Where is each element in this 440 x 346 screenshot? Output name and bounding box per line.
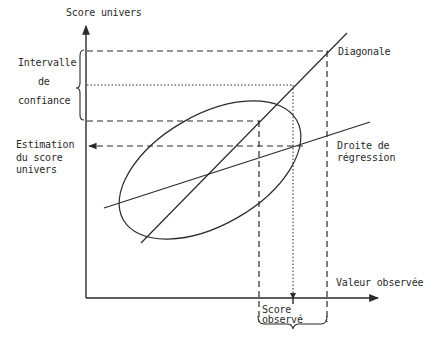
regression-label-line2: régression [337,152,395,164]
interval-label-line1: Intervalle [18,57,76,69]
interval-label-line3: confiance [18,95,70,107]
data-ellipse [96,72,324,267]
regression-label-line1: Droite de [337,140,389,152]
diagram-canvas: Score univers Valeur observée Diagonale … [0,0,440,346]
interval-label-line2: de [38,76,50,88]
x-axis-label: Valeur observée [336,277,423,289]
y-axis-label: Score univers [66,7,142,19]
regression-line [104,122,370,208]
diagonal-label: Diagonale [338,46,390,58]
estimate-label-line1: Estimation [16,139,74,151]
estimate-label-line3: univers [16,164,57,176]
estimate-label-line2: du score [16,152,63,164]
interval-brace [76,50,84,120]
observed-label-line2: observé [262,314,303,326]
diagonal-line [141,33,347,243]
